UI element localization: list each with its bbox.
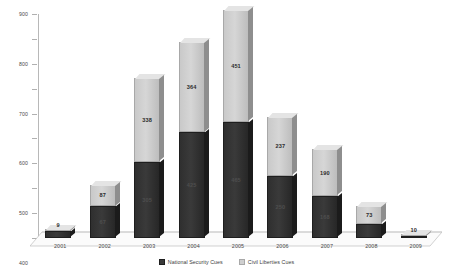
bar-value-label: 87 (91, 192, 115, 198)
bar-segment-national-security[interactable]: 425 (179, 132, 205, 238)
y-axis-tick: 900 (32, 14, 37, 15)
bar-value-label: 465 (224, 177, 248, 183)
bar-segment-civil-liberties[interactable]: 237 (267, 117, 293, 176)
bar-group[interactable]: 338305 (134, 78, 164, 238)
bar-segment-national-security[interactable]: 250 (267, 176, 293, 238)
y-axis-tick: 800 (32, 39, 37, 40)
legend-label: Civil Liberties Cues (248, 259, 294, 265)
bar-group[interactable]: 364425 (179, 42, 209, 238)
y-axis-tick: 400 (32, 138, 37, 139)
x-axis-tick-label: 2006 (262, 243, 302, 249)
legend-item[interactable]: National Security Cues (159, 259, 223, 265)
bar-segment-national-security[interactable]: 67 (90, 206, 116, 238)
x-axis-tick-label: 2008 (351, 243, 391, 249)
x-axis-tick-label: 2005 (218, 243, 258, 249)
bar-segment-civil-liberties[interactable]: 364 (179, 42, 205, 133)
bar-group[interactable]: 8767 (90, 185, 120, 238)
y-axis-tick: 0 (32, 238, 37, 239)
y-axis-tick-label: 600 (19, 160, 28, 166)
legend-item[interactable]: Civil Liberties Cues (239, 259, 294, 265)
bar-value-label: 9 (46, 222, 70, 228)
bar-segment-civil-liberties[interactable]: 338 (134, 78, 160, 162)
y-axis-tick-label: 800 (19, 61, 28, 67)
bar-value-label: 451 (224, 63, 248, 69)
bar-stack: 451465 (223, 10, 249, 238)
bar-group[interactable]: 190168 (312, 149, 342, 238)
bar-stack: 338305 (134, 78, 160, 238)
bar-value-label: 10 (402, 227, 426, 233)
x-axis-tick-label: 2007 (307, 243, 347, 249)
bar-segment-civil-liberties[interactable]: 87 (90, 185, 116, 207)
bar-stack: 190168 (312, 149, 338, 238)
bar-value-label: 425 (180, 182, 204, 188)
bar-stack: 9 (45, 229, 71, 238)
bar-segment-civil-liberties[interactable]: 451 (223, 10, 249, 122)
bar-stack: 8767 (90, 185, 116, 238)
bar-segment-civil-liberties[interactable]: 73 (356, 206, 382, 224)
x-axis-tick-label: 2009 (396, 243, 436, 249)
bar-value-label: 237 (268, 143, 292, 149)
bar-value-label: 364 (180, 84, 204, 90)
bar-value-label: 73 (357, 212, 381, 218)
bars-container: 987673383053644254514652372501901687310 (38, 14, 438, 238)
y-axis-tick: 600 (32, 89, 37, 90)
x-axis-tick-label: 2002 (85, 243, 125, 249)
legend-swatch-icon (239, 259, 245, 265)
bar-stack: 73 (356, 206, 382, 238)
legend-label: National Security Cues (168, 259, 223, 265)
x-axis-tick-label: 2001 (40, 243, 80, 249)
bar-stack: 237250 (267, 117, 293, 238)
bar-segment-national-security[interactable]: 465 (223, 122, 249, 238)
y-axis-tick: 200 (32, 188, 37, 189)
y-axis-tick: 500 (32, 114, 37, 115)
bar-group[interactable]: 9 (45, 229, 75, 238)
bar-value-label: 168 (313, 214, 337, 220)
legend-swatch-icon (159, 259, 165, 265)
bar-segment-national-security[interactable]: 168 (312, 196, 338, 238)
x-axis-labels: 200120022003200420052006200720082009 (38, 243, 438, 255)
bar-segment-national-security[interactable] (45, 231, 71, 238)
y-axis-tick: 100 (32, 213, 37, 214)
y-axis-tick-label: 900 (19, 11, 28, 17)
bar-group[interactable]: 451465 (223, 10, 253, 238)
y-axis-tick: 300 (32, 163, 37, 164)
bar-group[interactable]: 237250 (267, 117, 297, 238)
bar-value-label: 338 (135, 117, 159, 123)
bar-segment-national-security[interactable] (401, 236, 427, 238)
y-axis-tick: 700 (32, 64, 37, 65)
bar-stack: 10 (401, 234, 427, 238)
bar-value-label: 67 (91, 219, 115, 225)
x-axis-tick-label: 2004 (174, 243, 214, 249)
y-axis-tick-label: 500 (19, 210, 28, 216)
bar-value-label: 250 (268, 204, 292, 210)
bar-value-label: 190 (313, 170, 337, 176)
bar-segment-civil-liberties[interactable]: 190 (312, 149, 338, 196)
bar-segment-national-security[interactable]: 305 (134, 162, 160, 238)
bar-stack: 364425 (179, 42, 205, 238)
bar-group[interactable]: 73 (356, 206, 386, 238)
bar-segment-national-security[interactable] (356, 224, 382, 238)
stacked-bar-chart: 0100200300400500600700800900 98767338305… (0, 0, 453, 275)
chart-legend: National Security CuesCivil Liberties Cu… (0, 259, 453, 265)
x-axis-tick-label: 2003 (129, 243, 169, 249)
bar-group[interactable]: 10 (401, 234, 431, 238)
bar-value-label: 305 (135, 197, 159, 203)
y-axis-tick-label: 700 (19, 111, 28, 117)
